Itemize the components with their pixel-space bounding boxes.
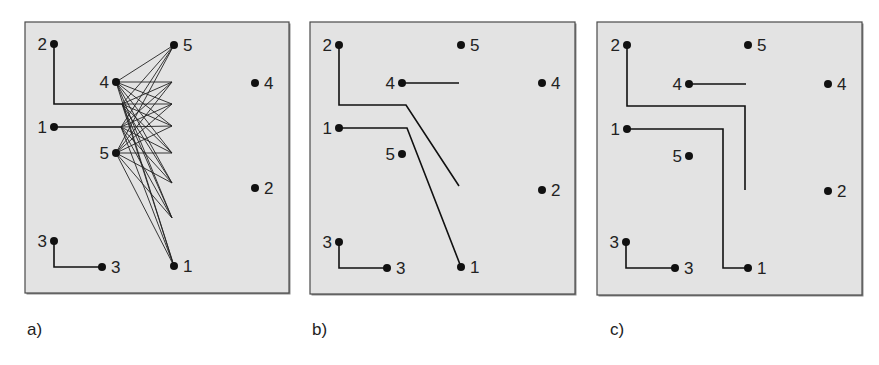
panel-frame [310,22,575,294]
pin-dot-icon [623,41,631,49]
pin-label: 3 [684,259,693,278]
pin-dot-icon [623,125,631,133]
pin-dot-icon [744,41,752,49]
pin-dot-icon [170,262,178,270]
pin-dot-icon [685,152,693,160]
pin-dot-icon [744,264,752,272]
panel-label-a: a) [27,320,42,340]
pin-label: 1 [38,118,47,137]
pin-dot-icon [251,79,259,87]
panel-a: 2133455142 [25,22,291,295]
pin-label: 3 [111,258,120,277]
pin-label: 5 [470,36,479,55]
pin-label: 2 [264,179,273,198]
panel-c: 2133455142 [597,22,864,297]
pin-label: 4 [837,75,846,94]
pin-dot-icon [824,187,832,195]
pin-label: 2 [551,181,560,200]
panel-label-b: b) [312,320,327,340]
pin-dot-icon [112,149,120,157]
pin-dot-icon [685,80,693,88]
pin-label: 4 [100,73,109,92]
routing-diagram: 2133455142 2133455142 2133455142 [0,0,879,365]
pin-dot-icon [50,237,58,245]
pin-label: 5 [673,147,682,166]
pin-dot-icon [457,41,465,49]
pin-label: 5 [757,36,766,55]
pin-dot-icon [335,238,343,246]
pin-dot-icon [622,238,630,246]
panel-frame [597,22,862,295]
panel-frame [25,22,289,293]
pin-label: 3 [38,232,47,251]
pin-label: 2 [323,36,332,55]
pin-label: 5 [183,36,192,55]
pin-label: 4 [551,74,560,93]
pin-label: 1 [183,257,192,276]
pin-label: 1 [611,120,620,139]
pin-label: 3 [610,233,619,252]
pin-dot-icon [112,78,120,86]
pin-dot-icon [538,186,546,194]
pin-label: 2 [611,36,620,55]
pin-label: 2 [837,182,846,201]
panel-b: 2133455142 [310,22,577,296]
pin-dot-icon [335,41,343,49]
pin-dot-icon [50,40,58,48]
pin-dot-icon [98,263,106,271]
pin-label: 4 [386,74,395,93]
pin-dot-icon [824,80,832,88]
pin-label: 1 [757,259,766,278]
pin-label: 3 [323,233,332,252]
pin-label: 2 [38,35,47,54]
pin-dot-icon [170,41,178,49]
pin-dot-icon [398,79,406,87]
panel-label-c: c) [610,320,624,340]
pin-label: 4 [673,75,682,94]
pin-label: 1 [323,119,332,138]
pin-label: 3 [396,259,405,278]
pin-dot-icon [50,123,58,131]
pin-dot-icon [383,264,391,272]
pin-label: 1 [470,258,479,277]
pin-dot-icon [335,124,343,132]
pin-dot-icon [671,264,679,272]
pin-dot-icon [251,184,259,192]
pin-dot-icon [457,263,465,271]
pin-label: 5 [100,144,109,163]
pin-dot-icon [398,150,406,158]
pin-label: 4 [264,74,273,93]
pin-label: 5 [386,145,395,164]
pin-dot-icon [538,79,546,87]
